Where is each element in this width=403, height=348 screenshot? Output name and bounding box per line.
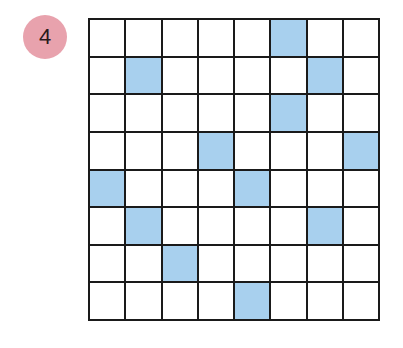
grid-cell [126,20,160,56]
grid-cell [235,208,269,244]
grid-cell [90,95,124,131]
grid-cell [199,283,233,319]
grid-cell [199,20,233,56]
problem-number-badge: 4 [23,15,67,59]
grid-cell [308,133,342,169]
grid-cell [344,58,378,94]
grid-cell [199,246,233,282]
grid-cell [271,171,305,207]
grid-cell-filled [271,20,305,56]
grid-cell [344,208,378,244]
grid-cell-filled [163,246,197,282]
grid-cell [271,208,305,244]
grid-cell [344,246,378,282]
grid-cell [163,283,197,319]
grid-cell [199,95,233,131]
grid-cell [308,283,342,319]
grid-cell-filled [126,58,160,94]
grid-cell [199,58,233,94]
grid-cell [90,246,124,282]
grid-cell [163,133,197,169]
grid-8x8 [88,18,380,321]
grid-cell [235,246,269,282]
grid-cell [308,20,342,56]
grid-cell [90,58,124,94]
grid-cell [163,58,197,94]
grid-cell [308,171,342,207]
grid-cell [344,283,378,319]
grid-cell [271,283,305,319]
grid-cell [308,95,342,131]
grid-cell-filled [271,95,305,131]
grid-cell [126,283,160,319]
grid-cell-filled [235,171,269,207]
grid-cell [199,208,233,244]
grid-cell [235,58,269,94]
grid-cell [235,95,269,131]
grid-cell [90,208,124,244]
grid-cell-filled [199,133,233,169]
grid-cell [271,133,305,169]
grid-cell [126,246,160,282]
grid-cell [344,20,378,56]
grid-cell [344,95,378,131]
grid-cell [90,283,124,319]
grid-cell-filled [90,171,124,207]
grid-cell-filled [344,133,378,169]
grid-cell-filled [126,208,160,244]
grid-cell-filled [308,58,342,94]
grid-cell [308,246,342,282]
grid-cell [126,95,160,131]
grid-cell [126,133,160,169]
grid-cell [163,95,197,131]
grid-cell [271,58,305,94]
grid-cell [163,171,197,207]
grid-cell-filled [235,283,269,319]
grid-cell-filled [308,208,342,244]
grid-cell [163,20,197,56]
grid-cell [271,246,305,282]
grid-cell [90,20,124,56]
grid-cell [163,208,197,244]
grid-cell [199,171,233,207]
grid-cell [90,133,124,169]
grid-cell [235,20,269,56]
grid-cell [344,171,378,207]
grid-cell [235,133,269,169]
grid-cell [126,171,160,207]
